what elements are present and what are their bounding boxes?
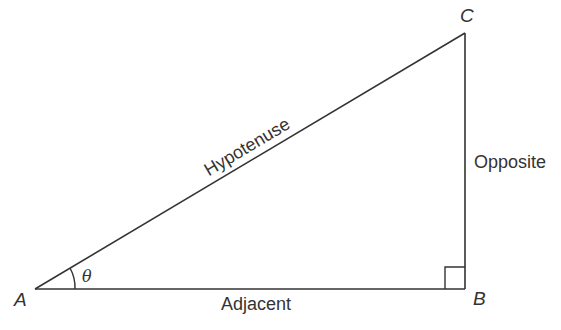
side-label-opposite: Opposite: [474, 152, 546, 172]
side-label-adjacent: Adjacent: [221, 294, 291, 314]
angle-label-theta: θ: [82, 267, 92, 286]
angle-arc: [70, 268, 75, 289]
vertex-label-b: B: [473, 288, 486, 309]
vertex-label-c: C: [460, 5, 474, 26]
side-label-hypotenuse: Hypotenuse: [201, 114, 294, 180]
side-hypotenuse-line: [35, 33, 465, 289]
right-triangle-diagram: A B C θ Hypotenuse Opposite Adjacent: [0, 0, 561, 330]
right-angle-marker: [445, 267, 465, 289]
vertex-label-a: A: [13, 289, 27, 310]
